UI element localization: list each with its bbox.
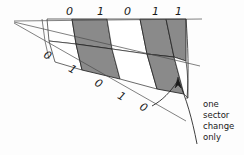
outer-track-label-1: 1 [97,6,104,17]
outer-track-label-4: 1 [175,6,182,17]
figure-canvas: 0 1 0 1 1 0 1 0 1 0 one sector change on… [0,0,244,155]
annotation-line-2: change [203,121,234,132]
outer-track-label-2: 0 [124,6,131,17]
outer-track-label-0: 0 [66,6,73,17]
annotation-line-1: sector [203,110,229,121]
outer-sector-0 [47,19,76,44]
annotation-line-3: only [203,132,221,143]
outer-track-label-3: 1 [152,6,159,17]
annotation-line-0: one [203,99,219,110]
apex-arc-1 [42,19,45,41]
